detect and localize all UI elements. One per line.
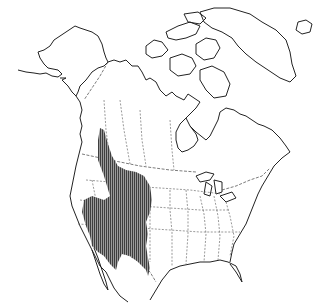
coastline-gulf — [114, 260, 242, 302]
border-alaska-canada — [84, 62, 108, 100]
coastline-arctic-islands — [146, 12, 230, 98]
coastline-atlantic — [230, 152, 290, 262]
coastline-greenland — [200, 8, 296, 82]
species-range — [82, 128, 152, 276]
coastline-alaska — [18, 26, 108, 96]
coastline-hudson-bay — [176, 118, 198, 152]
coastline-iceland — [296, 20, 312, 34]
great-lakes — [196, 172, 236, 202]
north-america-map-svg — [0, 0, 325, 306]
coastline-canada-north — [108, 60, 290, 152]
